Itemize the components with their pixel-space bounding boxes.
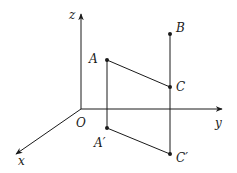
x-axis <box>16 109 81 154</box>
segment-A1-C1 <box>107 128 170 154</box>
point-A1 <box>105 126 109 130</box>
point-B <box>168 32 172 36</box>
y-axis-label: y <box>214 116 222 130</box>
z-axis-label: z <box>68 8 76 22</box>
segment-A-C <box>107 60 170 87</box>
labels: zyxOABCA′C′ <box>18 8 222 168</box>
segments <box>107 34 170 154</box>
point-label-A: A <box>88 52 98 66</box>
point-label-C1: C′ <box>176 151 188 165</box>
point-label-A1: A′ <box>93 136 106 150</box>
point-label-B: B <box>175 21 185 35</box>
point-label-C: C <box>176 80 185 94</box>
point-A <box>105 58 109 62</box>
points <box>105 32 172 156</box>
coordinate-diagram: zyxOABCA′C′ <box>0 0 237 173</box>
x-axis-label: x <box>18 154 25 168</box>
origin-label: O <box>76 116 86 130</box>
point-C <box>168 85 172 89</box>
point-C1 <box>168 152 172 156</box>
